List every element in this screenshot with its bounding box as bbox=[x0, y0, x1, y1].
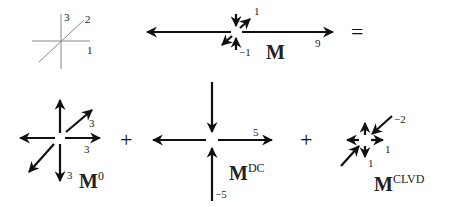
arrow-inward-sw-icon bbox=[341, 146, 359, 166]
arrow-ne-icon bbox=[240, 19, 250, 28]
MCLVD-label-diag: −2 bbox=[394, 113, 406, 125]
MCLVD-symbol: MCLVD bbox=[374, 172, 425, 195]
axis-label-3: 3 bbox=[64, 11, 70, 23]
MDC-label-horizontal: 5 bbox=[253, 126, 259, 138]
moment-tensor-decomposition-diagram: 3 2 1 1 −1 9 M = 3 3 3 M0 + 5 −5 MDC + bbox=[0, 0, 453, 207]
axis-label-1: 1 bbox=[87, 44, 93, 56]
M0-symbol: M0 bbox=[79, 169, 104, 192]
M0-label-vertical: 3 bbox=[67, 169, 73, 181]
tensor-M0 bbox=[20, 100, 100, 181]
tensor-MDC bbox=[153, 82, 272, 201]
tensor-MCLVD bbox=[341, 116, 392, 166]
MDC-symbol: MDC bbox=[229, 161, 265, 184]
tensor-M bbox=[147, 14, 333, 50]
axis-label-2: 2 bbox=[85, 13, 91, 25]
MCLVD-label-horizontal: 1 bbox=[385, 143, 391, 155]
M-label-diag: 1 bbox=[254, 5, 260, 17]
plus-sign-2: + bbox=[300, 127, 312, 152]
M-label-horizontal: 9 bbox=[315, 37, 321, 49]
M0-label-horizontal: 3 bbox=[84, 143, 90, 155]
M-label-vertical: −1 bbox=[239, 46, 251, 58]
equals-sign: = bbox=[351, 19, 363, 44]
arrow-inward-ne-icon bbox=[372, 116, 392, 134]
MDC-label-vertical: −5 bbox=[215, 188, 227, 200]
MCLVD-label-vertical: 1 bbox=[368, 157, 374, 169]
axes-key: 3 2 1 bbox=[32, 11, 93, 69]
M0-label-diag: 3 bbox=[89, 117, 95, 129]
arrow-sw-icon bbox=[222, 36, 232, 45]
M-symbol: M bbox=[266, 41, 285, 63]
arrow-sw-icon bbox=[29, 144, 54, 172]
plus-sign-1: + bbox=[120, 127, 132, 152]
